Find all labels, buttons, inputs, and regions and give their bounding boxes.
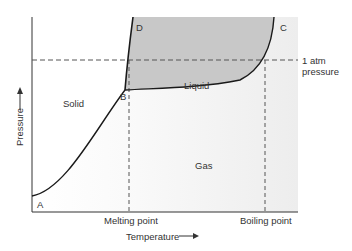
melting-point-label: Melting point: [104, 215, 158, 226]
y-arrow-icon: [17, 87, 23, 94]
point-a-label: A: [37, 199, 44, 210]
point-b-label: B: [120, 91, 126, 102]
point-d-label: D: [136, 22, 143, 33]
liquid-label: Liquid: [184, 80, 209, 91]
point-c-label: C: [280, 22, 287, 33]
x-arrow-icon: [193, 233, 199, 239]
solid-label: Solid: [63, 98, 84, 109]
phase-diagram: A B C D Solid Liquid Gas 1 atm pressure …: [0, 0, 352, 251]
boiling-point-label: Boiling point: [240, 215, 292, 226]
gas-label: Gas: [195, 160, 213, 171]
x-axis-label: Temperature: [126, 231, 179, 242]
one-atm-label: 1 atm: [302, 55, 326, 66]
pressure-ref-label: pressure: [302, 66, 339, 77]
y-axis-label: Pressure: [14, 108, 25, 146]
